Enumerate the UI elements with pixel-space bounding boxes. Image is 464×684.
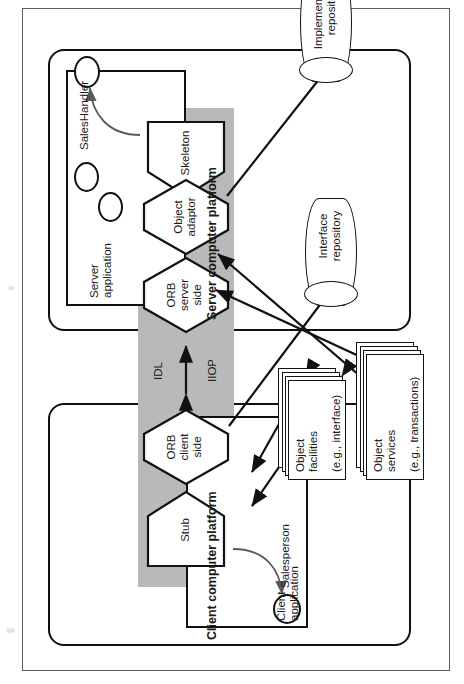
diagram-canvas: Server computer platform Client computer…: [30, 22, 434, 662]
object-adaptor-label: Object adaptor: [172, 189, 198, 245]
server-platform-label: Server computer platform: [205, 167, 219, 320]
object-services-title: Object services: [372, 430, 398, 472]
figure-page: Server computer platform Client computer…: [0, 0, 464, 684]
server-application-label: Server application: [88, 243, 114, 298]
scan-artifact: [6, 628, 15, 633]
saleshandler-label: SalesHandler: [78, 81, 91, 150]
object-services-subtitle: (e.g., transactions): [408, 377, 421, 472]
orb-server-side-label: ORB server side: [165, 267, 204, 323]
object-facilities-subtitle: (e.g., interface): [330, 395, 343, 472]
cylinder-cap: [304, 281, 358, 307]
cylinder-cap: [299, 57, 353, 83]
server-object-circle-1: [74, 162, 99, 192]
object-facilities-title: Object facilities: [294, 431, 320, 472]
salesperson-label: Salesperson: [279, 524, 292, 588]
orb-client-side-label: ORB client side: [165, 419, 204, 475]
client-platform-label: Client computer platform: [205, 491, 219, 640]
stub-label: Stub: [179, 502, 192, 558]
server-object-circle-2: [98, 192, 123, 222]
idl-label: IDL: [152, 362, 165, 380]
scan-artifact-2: [8, 286, 15, 290]
skeleton-label: Skeleton: [179, 125, 192, 181]
interface-repository-label: Interface repository: [317, 194, 343, 278]
iiop-label: IIOP: [206, 359, 219, 382]
implementation-repository-label: Implementation repository: [312, 0, 338, 56]
